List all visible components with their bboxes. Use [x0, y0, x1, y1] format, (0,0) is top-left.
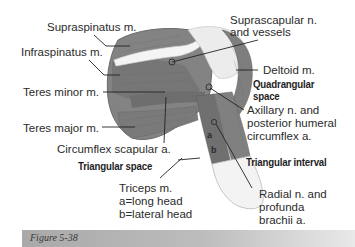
label-axillary-line3: circumflex a.: [247, 130, 312, 142]
label-triceps-line2: a=long head: [119, 195, 183, 207]
letter-b-lateral-head: b: [211, 145, 217, 155]
label-axillary-line1: Axillary n. and: [247, 104, 319, 116]
label-suprascapular-line2: and vessels: [230, 26, 291, 38]
label-supraspinatus: Supraspinatus m.: [47, 21, 137, 33]
label-triceps-line3: b=lateral head: [119, 208, 192, 220]
label-radial-line2: profunda: [259, 201, 304, 213]
letter-a-long-head: a: [207, 130, 212, 140]
figure-caption: Figure 5-38: [30, 232, 78, 243]
label-triceps-line1: Triceps m.: [119, 182, 172, 194]
label-suprascapular-line1: Suprascapular n.: [230, 14, 317, 26]
label-radial-line3: brachii a.: [259, 214, 306, 226]
label-deltoid: Deltoid m.: [263, 64, 315, 76]
label-quadrangular-line1: Quadrangular: [253, 78, 314, 90]
label-radial-line1: Radial n. and: [259, 188, 327, 200]
label-triangular-interval: Triangular interval: [246, 156, 327, 168]
label-teres-minor: Teres minor m.: [23, 86, 99, 98]
anatomy-figure: Supraspinatus m. Infraspinatus m. Teres …: [0, 0, 355, 247]
label-axillary-line2: posterior humeral: [247, 117, 336, 129]
label-infraspinatus: Infraspinatus m.: [21, 46, 103, 58]
figure-caption-bar: Figure 5-38: [22, 230, 355, 247]
label-teres-major: Teres major m.: [23, 122, 99, 134]
label-triangular-space: Triangular space: [78, 160, 152, 172]
label-circumflex-scapular: Circumflex scapular a.: [57, 143, 171, 155]
label-quadrangular-line2: space: [253, 90, 280, 102]
